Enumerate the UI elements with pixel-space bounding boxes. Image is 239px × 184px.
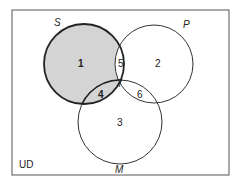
region-4: 4 (98, 89, 104, 100)
venn-diagram: S P M UD 1 2 3 4 5 6 7 (0, 0, 239, 184)
region-6: 6 (137, 89, 143, 100)
region-1: 1 (78, 58, 84, 69)
set-label-p: P (183, 19, 190, 30)
universe-border (12, 10, 229, 175)
set-label-m: M (115, 164, 124, 175)
region-2: 2 (155, 58, 161, 69)
region-5: 5 (118, 58, 124, 69)
region-3: 3 (117, 117, 123, 128)
circle-p (115, 25, 193, 103)
set-label-s: S (54, 17, 61, 28)
region-7: 7 (117, 78, 123, 89)
universe-label: UD (19, 159, 33, 170)
